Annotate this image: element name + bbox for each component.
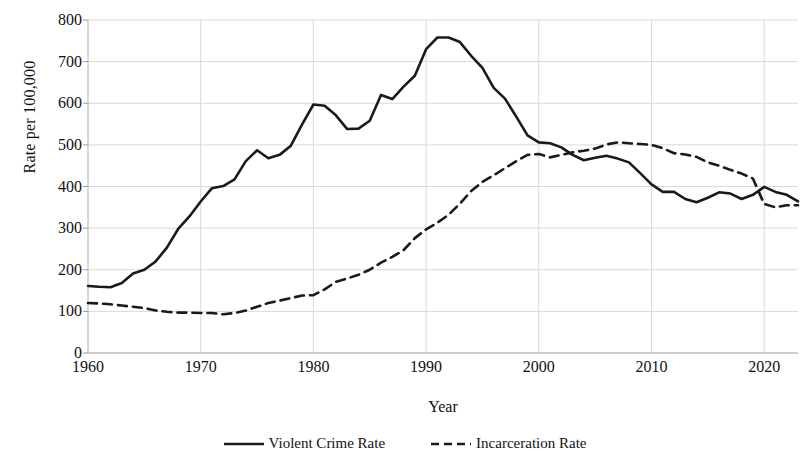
legend-dashed-line-icon — [431, 438, 471, 450]
x-tick-label: 1970 — [166, 358, 236, 376]
x-tick-label: 2020 — [729, 358, 799, 376]
grid-lines — [88, 20, 798, 353]
y-tick-label: 300 — [34, 220, 82, 236]
series-line-0 — [88, 37, 798, 287]
y-tick-label: 800 — [34, 12, 82, 28]
x-tick-label: 1990 — [391, 358, 461, 376]
x-tick-label: 2010 — [616, 358, 686, 376]
plot-area — [0, 0, 810, 466]
x-axis-title: Year — [88, 398, 798, 416]
y-tick-label: 200 — [34, 262, 82, 278]
legend-solid-line-icon — [224, 438, 264, 450]
legend-label: Incarceration Rate — [476, 436, 586, 451]
legend-item[interactable]: Incarceration Rate — [431, 436, 586, 451]
y-tick-label: 100 — [34, 303, 82, 319]
y-tick-label: 400 — [34, 179, 82, 195]
y-tick-label: 500 — [34, 137, 82, 153]
line-chart: Rate per 100,000 01002003004005006007008… — [0, 0, 810, 466]
x-tick-label: 1980 — [278, 358, 348, 376]
x-tick-label: 2000 — [504, 358, 574, 376]
chart-legend: Violent Crime RateIncarceration Rate — [0, 436, 810, 451]
series-lines — [88, 37, 798, 314]
legend-item[interactable]: Violent Crime Rate — [224, 436, 386, 451]
y-tick-label: 600 — [34, 95, 82, 111]
legend-label: Violent Crime Rate — [269, 436, 386, 451]
x-tick-label: 1960 — [53, 358, 123, 376]
y-tick-label: 700 — [34, 54, 82, 70]
